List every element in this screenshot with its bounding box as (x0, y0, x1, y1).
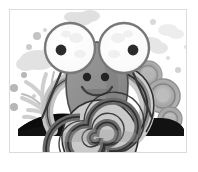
snail-foot (62, 130, 138, 143)
left-nostril (83, 73, 91, 81)
left-eye (45, 23, 95, 73)
right-eye (99, 23, 149, 73)
right-nostril (101, 73, 109, 81)
artwork-canvas (0, 0, 198, 172)
illustration-stage: Cartoon Snail Illustration (0, 0, 198, 172)
left-pupil (56, 45, 67, 56)
snail-artwork-svg (0, 0, 198, 172)
right-pupil (128, 45, 139, 56)
